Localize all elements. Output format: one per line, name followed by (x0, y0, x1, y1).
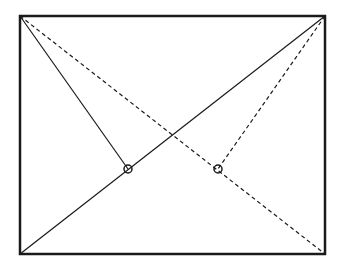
points (124, 165, 222, 173)
diagram-canvas (0, 0, 337, 270)
top-right-to-right-point-line (218, 16, 325, 169)
top-left-to-left-point-line (20, 16, 128, 169)
